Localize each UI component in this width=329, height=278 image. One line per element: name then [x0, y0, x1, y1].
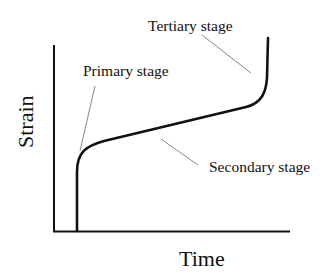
- tertiary-stage-label: Tertiary stage: [148, 17, 233, 34]
- secondary-stage-label: Secondary stage: [209, 158, 310, 175]
- y-axis-label: Strain: [13, 95, 38, 148]
- primary-pointer: [80, 86, 95, 151]
- creep-curve-diagram: Primary stage Secondary stage Tertiary s…: [0, 0, 329, 278]
- x-axis-label: Time: [179, 246, 225, 271]
- primary-stage-label: Primary stage: [83, 62, 169, 79]
- secondary-pointer: [161, 139, 198, 165]
- tertiary-pointer: [202, 35, 251, 73]
